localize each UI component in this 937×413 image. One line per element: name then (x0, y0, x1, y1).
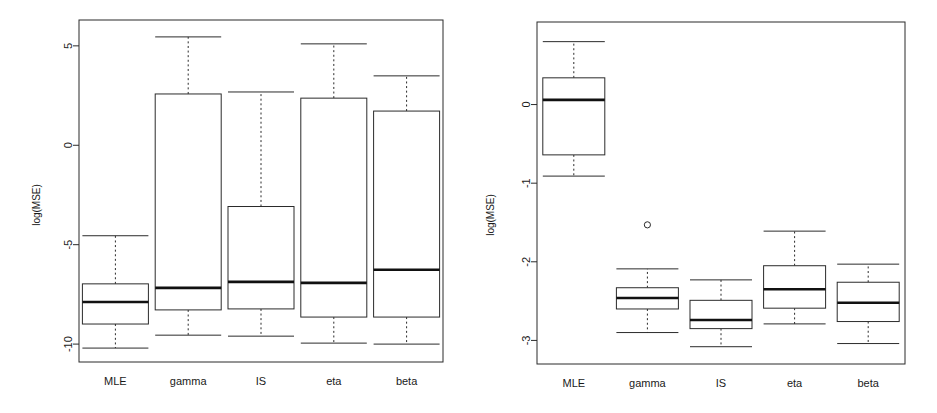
box-eta (764, 231, 826, 324)
y-tick-label: 0 (520, 101, 532, 107)
x-axis-labels-right: MLEgammaISetabeta (562, 377, 879, 389)
x-category-label: gamma (170, 375, 208, 387)
y-tick-label: 0 (62, 142, 74, 148)
y-tick-label: -3 (520, 336, 532, 346)
box-gamma (155, 37, 221, 335)
box-rect (82, 284, 148, 324)
y-tick-label: -5 (62, 240, 74, 250)
x-category-label: beta (396, 375, 418, 387)
x-category-label: gamma (629, 377, 667, 389)
y-tick-label: -1 (520, 178, 532, 188)
box-rect (764, 266, 826, 308)
x-category-label: IS (716, 377, 726, 389)
box-rect (374, 111, 440, 317)
box-MLE (82, 236, 148, 348)
x-category-label: MLE (104, 375, 127, 387)
box-MLE (543, 42, 605, 176)
figure-canvas: 50-5-10 MLEgammaISetabeta log(MSE) 0-1-2… (0, 0, 937, 413)
box-rect (155, 94, 221, 310)
boxplot-panel-left: 50-5-10 MLEgammaISetabeta log(MSE) (0, 0, 468, 413)
box-gamma (616, 222, 678, 333)
box-rect (690, 300, 752, 328)
y-tick-label: -2 (520, 257, 532, 267)
y-axis-title-left: log(MSE) (31, 184, 42, 226)
boxes-group-right (543, 42, 899, 347)
boxplot-panel-right: 0-1-2-3 MLEgammaISetabeta log(MSE) (468, 0, 937, 413)
y-tick-label: 5 (62, 43, 74, 49)
boxplot-svg-left: 50-5-10 MLEgammaISetabeta log(MSE) (0, 0, 468, 413)
x-category-label: IS (256, 375, 266, 387)
box-rect (543, 78, 605, 155)
boxes-group-left (82, 37, 439, 348)
x-category-label: eta (787, 377, 803, 389)
x-category-label: MLE (562, 377, 585, 389)
box-IS (690, 280, 752, 347)
boxplot-svg-right: 0-1-2-3 MLEgammaISetabeta log(MSE) (468, 0, 937, 413)
y-tick-label: -10 (62, 336, 74, 352)
x-category-label: beta (857, 377, 879, 389)
y-axis-ticks-left: 50-5-10 (62, 43, 79, 352)
y-axis-ticks-right: 0-1-2-3 (520, 101, 537, 345)
box-rect (228, 207, 294, 309)
box-IS (228, 92, 294, 336)
box-beta (374, 76, 440, 344)
x-category-label: eta (326, 375, 342, 387)
box-eta (301, 44, 367, 343)
x-axis-labels-left: MLEgammaISetabeta (104, 375, 418, 387)
box-rect (301, 98, 367, 317)
box-beta (837, 264, 899, 343)
y-axis-title-right: log(MSE) (485, 194, 496, 236)
outlier-point (644, 222, 650, 228)
